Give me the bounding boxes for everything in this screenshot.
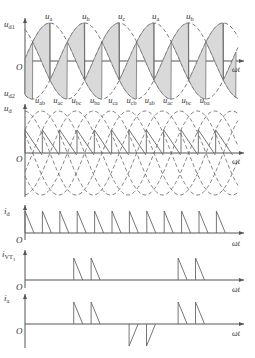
curve-label-u_b: ub — [82, 11, 90, 22]
panel4-y-arrow-icon — [23, 250, 27, 255]
ia-positive-pulse — [178, 302, 187, 324]
id-pulse — [216, 211, 225, 233]
panel4-x-arrow-icon — [239, 278, 244, 282]
curve-label-u_bc: ubc — [72, 95, 82, 106]
shaded-region-upper — [102, 23, 119, 80]
shaded-region-lower — [25, 42, 33, 99]
id-pulse — [25, 211, 34, 233]
ud-segment — [112, 130, 129, 155]
id-pulse — [42, 211, 51, 233]
ivt1-pulse — [178, 258, 187, 280]
shaded-region-lower — [85, 42, 102, 99]
curve-label-u_c: uc — [118, 11, 126, 22]
shaded-region-lower — [119, 42, 136, 99]
plot-layer — [23, 18, 244, 348]
curve-label-u_ca: uca — [108, 95, 118, 106]
id-pulse — [60, 211, 69, 233]
id-pulse — [129, 211, 138, 233]
shaded-region-lower — [50, 42, 67, 99]
curve-label-u_a: ua — [45, 11, 53, 22]
ud1-label: ud1 — [4, 19, 15, 30]
omega-t-label-2: ωt — [232, 157, 241, 166]
panel5-y-arrow-icon — [23, 294, 27, 299]
panel5-x-arrow-icon — [239, 322, 244, 326]
origin-label-2: O — [16, 154, 23, 164]
ia-positive-pulse — [196, 302, 205, 324]
curve-label-u_bc: ubc — [181, 95, 191, 106]
ivt1-pulse — [91, 258, 100, 280]
ud-segment — [94, 130, 111, 155]
shaded-region-upper — [33, 23, 50, 80]
id-label: id — [4, 206, 11, 217]
ud2-label: ud2 — [4, 88, 15, 99]
id-pulse — [182, 211, 191, 233]
panel1-y-arrow-icon — [23, 18, 27, 23]
omega-t-label-4: ωt — [232, 285, 241, 294]
panel3-x-arrow-icon — [239, 231, 244, 235]
ia-positive-pulse — [91, 302, 100, 324]
panel2-x-arrow-icon — [239, 151, 244, 155]
curve-label-u_b: ub — [186, 11, 194, 22]
shaded-region-lower — [223, 52, 236, 98]
omega-t-label: ωt — [232, 65, 241, 74]
shaded-region-upper — [67, 23, 84, 80]
origin-label-4: O — [16, 282, 23, 292]
origin-label-3: O — [16, 235, 23, 245]
origin-label: O — [16, 62, 23, 72]
ia-negative-pulse — [129, 324, 138, 346]
ivt1-label: iVT1 — [2, 249, 16, 262]
omega-t-label-5: ωt — [232, 329, 241, 338]
ia-negative-pulse — [147, 324, 156, 346]
id-pulse — [95, 211, 104, 233]
id-pulse — [199, 211, 208, 233]
id-pulse — [147, 211, 156, 233]
curve-label-u_ab: uab — [145, 95, 155, 106]
curve-label-u_a: ua — [152, 11, 160, 22]
id-pulse — [77, 211, 86, 233]
panel3-y-arrow-icon — [23, 205, 27, 210]
ud-segment — [129, 130, 146, 155]
shaded-region-upper — [206, 23, 223, 80]
curve-label-u_ab: uab — [35, 95, 45, 106]
origin-label-5: O — [16, 326, 23, 336]
id-pulse — [112, 211, 121, 233]
shaded-region-lower — [189, 42, 206, 99]
three-phase-rectifier-waveform-diagram: ud1ud2OωtuaubucuaubudOωtuabuacubcubaucau… — [0, 0, 255, 358]
ia-positive-pulse — [74, 302, 83, 324]
ia-label: ia — [4, 293, 10, 304]
ivt1-pulse — [196, 258, 205, 280]
shaded-region-upper — [171, 23, 188, 80]
id-pulse — [164, 211, 173, 233]
omega-t-label-3: ωt — [232, 239, 241, 248]
ivt1-pulse — [74, 258, 83, 280]
shaded-region-lower — [154, 42, 171, 99]
ud-label: ud — [4, 103, 13, 114]
panel1-x-arrow-icon — [239, 59, 244, 63]
panel2-y-arrow-icon — [23, 104, 27, 109]
shaded-region-upper — [137, 23, 154, 80]
